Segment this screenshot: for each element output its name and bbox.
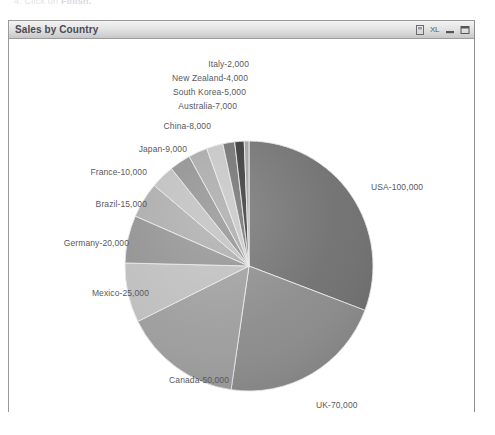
pie-slice-label: Canada-50,000	[9, 375, 229, 385]
panel-title: Sales by Country	[9, 24, 98, 35]
pie-slice-label: China-8,000	[9, 121, 211, 131]
pie-slice-label: Mexico-25,000	[9, 288, 149, 298]
pie-slice-label: Australia-7,000	[9, 101, 237, 111]
pie-slice-label: New Zealand-4,000	[9, 73, 248, 83]
instruction-hint: 4. Click on Finish.	[14, 0, 91, 6]
maximize-icon[interactable]	[459, 24, 470, 35]
pie-slice-label: Brazil-15,000	[9, 199, 147, 209]
instruction-hint-bold: Finish.	[61, 0, 91, 6]
instruction-hint-text: Click on	[25, 0, 59, 6]
pie-slice-label: USA-100,000	[371, 182, 423, 192]
pie-slices	[125, 141, 373, 391]
pie-slice-label: Italy-2,000	[9, 59, 249, 69]
report-titlebar: Sales by Country XL	[9, 21, 474, 39]
print-icon[interactable]	[414, 24, 425, 35]
pie-slice-label: South Korea-5,000	[9, 87, 246, 97]
chart-canvas: USA-100,000UK-70,000Canada-50,000Mexico-…	[9, 39, 474, 413]
pie-slice-label: Japan-9,000	[9, 144, 187, 154]
pie-slice-label: UK-70,000	[316, 400, 358, 410]
pie-slice-label: France-10,000	[9, 167, 147, 177]
report-panel: Sales by Country XL	[8, 20, 475, 412]
pie-slice-label: Germany-20,000	[9, 238, 129, 248]
titlebar-tools: XL	[414, 21, 470, 38]
minimize-icon[interactable]	[444, 24, 455, 35]
excel-export-icon[interactable]: XL	[429, 24, 440, 35]
instruction-hint-prefix: 4.	[14, 0, 22, 6]
